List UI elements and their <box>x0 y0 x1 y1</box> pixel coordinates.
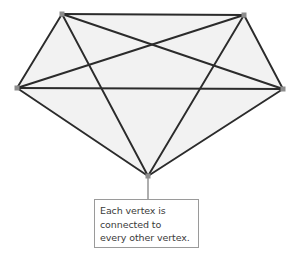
vertex-left[interactable] <box>15 86 20 91</box>
graph-faces <box>17 14 283 176</box>
vertex-bottom[interactable] <box>146 174 151 179</box>
vertex-top-right[interactable] <box>242 13 247 18</box>
callout-text-line-1: Each vertex is <box>100 204 198 218</box>
graph-fill-lower <box>17 88 283 176</box>
diagram-canvas: Each vertex is connected to every other … <box>0 0 300 263</box>
graph-fill-upper <box>17 14 283 89</box>
annotation-callout: Each vertex is connected to every other … <box>94 199 199 248</box>
callout-text-line-2: connected to <box>100 218 198 232</box>
edge-left--right <box>17 88 283 89</box>
vertex-top-left[interactable] <box>60 12 65 17</box>
vertex-right[interactable] <box>281 87 286 92</box>
edge-top-left--top-right <box>62 14 244 15</box>
callout-text-line-3: every other vertex. <box>100 231 198 245</box>
